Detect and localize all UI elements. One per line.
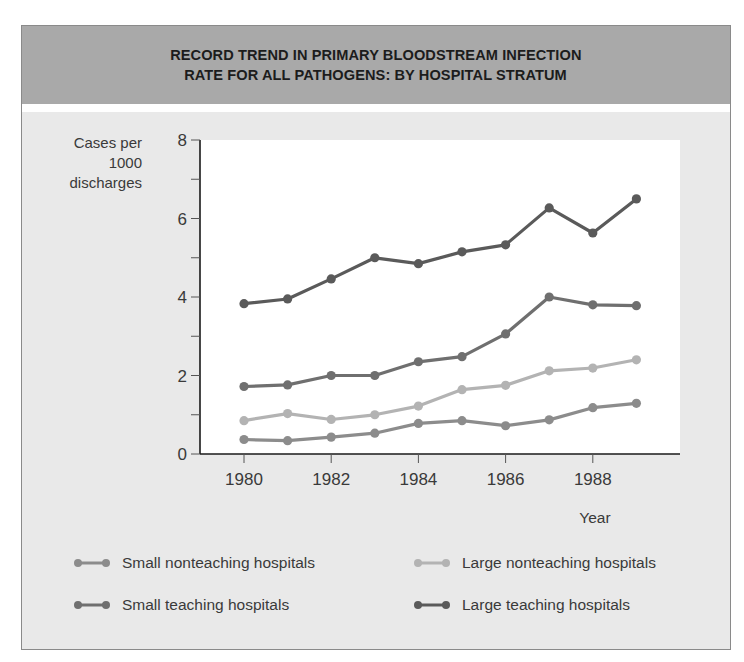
data-point (283, 294, 292, 303)
legend-label: Large nonteaching hospitals (462, 554, 656, 572)
data-point (588, 300, 597, 309)
legend-line-marker-icon (414, 558, 450, 568)
x-tick-label: 1980 (225, 470, 263, 489)
data-point (283, 409, 292, 418)
x-tick-label: 1988 (574, 470, 612, 489)
y-tick-label: 2 (178, 367, 187, 386)
data-point (501, 381, 510, 390)
data-point (414, 259, 423, 268)
legend-label: Large teaching hospitals (462, 596, 630, 614)
legend-item-small-nonteaching: Small nonteaching hospitals (74, 554, 315, 572)
legend-line-marker-icon (74, 558, 110, 568)
data-point (588, 363, 597, 372)
legend-line-marker-icon (74, 600, 110, 610)
data-point (370, 410, 379, 419)
data-point (501, 240, 510, 249)
data-point (414, 357, 423, 366)
y-tick-label: 0 (178, 445, 187, 464)
data-point (632, 301, 641, 310)
data-point (588, 228, 597, 237)
data-point (327, 433, 336, 442)
data-point (283, 380, 292, 389)
data-point (283, 436, 292, 445)
x-tick-label: 1984 (399, 470, 437, 489)
data-point (370, 253, 379, 262)
data-point (239, 299, 248, 308)
data-point (457, 247, 466, 256)
data-point (370, 429, 379, 438)
data-point (632, 355, 641, 364)
legend-item-large-nonteaching: Large nonteaching hospitals (414, 554, 656, 572)
x-tick-label: 1982 (312, 470, 350, 489)
legend-line-marker-icon (414, 600, 450, 610)
data-point (327, 415, 336, 424)
legend-label: Small teaching hospitals (122, 596, 289, 614)
data-point (370, 371, 379, 380)
data-point (239, 416, 248, 425)
data-point (588, 403, 597, 412)
data-point (501, 421, 510, 430)
data-point (545, 366, 554, 375)
data-point (501, 329, 510, 338)
legend-item-small-teaching: Small teaching hospitals (74, 596, 289, 614)
data-point (414, 402, 423, 411)
data-point (327, 371, 336, 380)
data-point (327, 274, 336, 283)
data-point (414, 419, 423, 428)
legend-item-large-teaching: Large teaching hospitals (414, 596, 630, 614)
y-tick-label: 6 (178, 210, 187, 229)
legend-label: Small nonteaching hospitals (122, 554, 315, 572)
data-point (632, 194, 641, 203)
data-point (239, 435, 248, 444)
data-point (239, 382, 248, 391)
x-tick-label: 1986 (487, 470, 525, 489)
data-point (457, 352, 466, 361)
data-point (545, 415, 554, 424)
data-point (545, 203, 554, 212)
x-axis-label: Year (579, 509, 610, 526)
y-tick-label: 4 (178, 288, 187, 307)
data-point (632, 399, 641, 408)
data-point (545, 292, 554, 301)
data-point (457, 385, 466, 394)
y-tick-label: 8 (178, 131, 187, 150)
data-point (457, 416, 466, 425)
